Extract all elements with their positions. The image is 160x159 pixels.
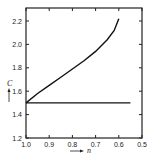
chart: 1.21.41.61.82.02.2 1.00.90.80.70.60.5 C … bbox=[0, 0, 160, 159]
y-axis-arrowhead-icon bbox=[8, 88, 11, 92]
x-tick-label: 0.6 bbox=[114, 141, 124, 148]
x-tick-label: 0.5 bbox=[137, 141, 147, 148]
x-tick-label: 0.9 bbox=[44, 141, 54, 148]
y-tick-label: 1.6 bbox=[12, 88, 22, 95]
x-tick-label: 0.8 bbox=[68, 141, 78, 148]
x-axis-label: n bbox=[87, 146, 91, 155]
x-axis-ticks: 1.00.90.80.70.60.5 bbox=[21, 8, 147, 148]
y-axis-label: C bbox=[7, 79, 13, 88]
x-tick-label: 0.7 bbox=[91, 141, 101, 148]
x-axis-arrowhead-icon bbox=[80, 150, 84, 153]
x-tick-label: 1.0 bbox=[21, 141, 31, 148]
series-curve bbox=[26, 19, 119, 103]
y-tick-label: 2.2 bbox=[12, 18, 22, 25]
y-axis-ticks: 1.21.41.61.82.02.2 bbox=[12, 18, 142, 142]
series-lines bbox=[26, 19, 130, 103]
y-tick-label: 2.0 bbox=[12, 41, 22, 48]
y-tick-label: 1.8 bbox=[12, 64, 22, 71]
y-tick-label: 1.4 bbox=[12, 111, 22, 118]
plot-frame bbox=[26, 8, 142, 138]
